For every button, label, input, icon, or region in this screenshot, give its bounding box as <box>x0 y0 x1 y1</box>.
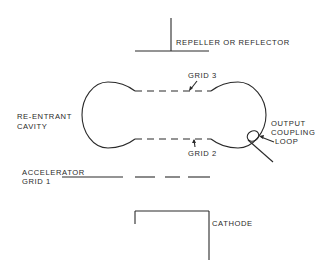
grid-3-arrow-icon <box>189 81 197 91</box>
cavity-label-line1: RE-ENTRANT <box>17 112 72 121</box>
cathode-electrode <box>135 211 209 260</box>
output-label-line1: OUTPUT <box>271 119 306 128</box>
output-label-line3: LOOP <box>275 137 299 146</box>
accelerator-label-line1: ACCELERATOR <box>22 168 85 177</box>
output-label-line2: COUPLING <box>271 128 315 137</box>
repeller-label: REPELLER OR REFLECTOR <box>176 38 290 47</box>
grid-2-arrow-icon <box>192 139 196 147</box>
grid-3-label: GRID 3 <box>188 71 217 80</box>
cavity-label-line2: CAVITY <box>17 122 47 131</box>
re-entrant-cavity <box>82 82 266 148</box>
cathode-label: CATHODE <box>212 219 253 228</box>
accelerator-label-line2: GRID 1 <box>22 177 51 186</box>
grid-2-label: GRID 2 <box>188 149 217 158</box>
klystron-diagram: REPELLER OR REFLECTOR GRID 3 GRID 2 RE-E… <box>0 0 329 270</box>
